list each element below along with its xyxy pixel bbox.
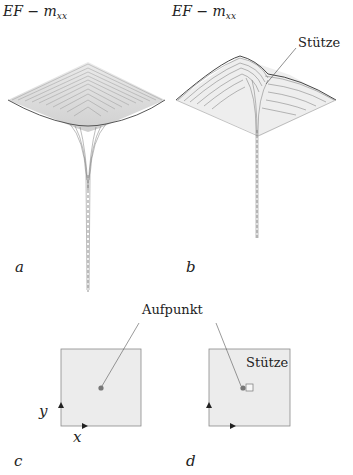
panel-b-title: EF − mxx bbox=[172, 3, 236, 21]
aufpunkt-label: Aufpunkt bbox=[142, 302, 203, 317]
panel-a-title: EF − mxx bbox=[3, 3, 67, 21]
panel-d-stuetze-label: Stütze bbox=[246, 355, 288, 370]
axis-x-label: x bbox=[73, 428, 81, 446]
axis-y-label: y bbox=[39, 402, 47, 420]
panel-d-plate bbox=[206, 323, 290, 429]
panel-b-stuetze-label: Stütze bbox=[298, 35, 340, 50]
panel-a-surface bbox=[8, 62, 165, 292]
panel-c-plate bbox=[58, 323, 141, 429]
panel-b-title-main: EF − m bbox=[172, 3, 226, 19]
panel-a-title-sub: xx bbox=[57, 11, 67, 21]
panel-c-letter: c bbox=[14, 452, 22, 470]
panel-b-title-sub: xx bbox=[226, 11, 236, 21]
panel-b-surface bbox=[176, 48, 336, 240]
panel-a-title-main: EF − m bbox=[3, 3, 57, 19]
panel-d-letter: d bbox=[186, 452, 196, 470]
panel-a-letter: a bbox=[15, 258, 24, 276]
panel-b-letter: b bbox=[186, 258, 196, 276]
figure-graphics bbox=[0, 0, 353, 475]
